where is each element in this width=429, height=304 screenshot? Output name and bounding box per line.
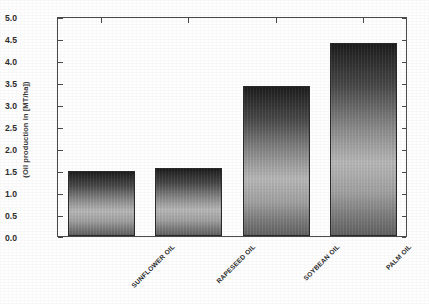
y-tick-major: [58, 128, 63, 129]
y-tick-major: [58, 237, 63, 238]
y-tick-major: [58, 84, 63, 85]
y-tick-major: [58, 172, 63, 173]
y-tick-label: 2.0: [0, 145, 17, 155]
bar-soybean-oil: [243, 86, 310, 236]
x-tick-label-soybean-oil: SOYBEAN OIL: [302, 243, 341, 282]
y-tick-major: [402, 172, 407, 173]
y-tick-major: [402, 237, 407, 238]
y-tick-label: 1.0: [0, 189, 17, 199]
y-tick-label: 0.0: [0, 233, 17, 243]
y-tick-major: [402, 62, 407, 63]
bar-rapeseed-oil: [155, 168, 222, 236]
y-tick-major: [402, 194, 407, 195]
y-tick-label: 5.0: [0, 13, 17, 23]
x-tick: [188, 18, 189, 23]
y-tick-major: [58, 40, 63, 41]
y-tick-label: 4.0: [0, 57, 17, 67]
y-tick-major: [58, 106, 63, 107]
x-tick: [276, 18, 277, 23]
x-tick: [101, 18, 102, 23]
y-tick-major: [402, 18, 407, 19]
y-tick-major: [402, 106, 407, 107]
y-tick-major: [58, 150, 63, 151]
y-tick-label: 0.5: [0, 211, 17, 221]
bar-chart-figure: (Oil production in [MT/ha]) 5.0 4.5 4.0 …: [0, 0, 429, 304]
x-tick-label-rapeseed-oil: RAPESEED OIL: [215, 243, 256, 284]
y-tick-major: [402, 40, 407, 41]
y-tick-label: 3.5: [0, 79, 17, 89]
y-tick-major: [402, 216, 407, 217]
x-tick-label-palm-oil: PALM OIL: [385, 243, 413, 271]
bar-palm-oil: [330, 43, 397, 236]
x-tick-label-sunflower-oil: SUNFLOWER OIL: [130, 243, 176, 289]
plot-area: [57, 17, 407, 237]
y-tick-major: [402, 84, 407, 85]
y-tick-label: 2.5: [0, 123, 17, 133]
y-tick-major: [58, 194, 63, 195]
y-tick-label: 3.0: [0, 101, 17, 111]
y-tick-major: [58, 18, 63, 19]
y-axis-title: (Oil production in [MT/ha]): [21, 35, 30, 225]
y-tick-label: 1.5: [0, 167, 17, 177]
y-tick-label: 4.5: [0, 35, 17, 45]
y-tick-major: [402, 128, 407, 129]
bar-sunflower-oil: [68, 171, 135, 236]
y-tick-major: [402, 150, 407, 151]
y-tick-major: [58, 62, 63, 63]
y-tick-major: [58, 216, 63, 217]
x-tick: [363, 18, 364, 23]
